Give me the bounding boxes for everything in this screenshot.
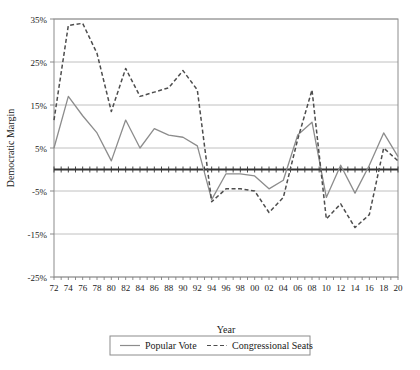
x-tick-label-88: 88 — [164, 283, 174, 293]
x-tick-label-90: 90 — [179, 283, 189, 293]
x-tick-label-76: 76 — [78, 283, 88, 293]
y-tick-label-neg25pct: -25% — [28, 273, 48, 283]
y-axis-ticks — [50, 19, 54, 277]
x-tick-label-94: 94 — [207, 283, 217, 293]
x-axis-title: Year — [217, 324, 236, 335]
x-tick-label-86: 86 — [150, 283, 160, 293]
y-tick-label-15pct: 15% — [31, 101, 48, 111]
x-axis-tick-labels: 7274767880828486889092949698000204060810… — [50, 283, 404, 293]
chart-container: 7274767880828486889092949698000204060810… — [0, 0, 420, 370]
x-tick-label-00: 00 — [250, 283, 260, 293]
democratic-margin-line-chart: 7274767880828486889092949698000204060810… — [0, 0, 420, 370]
x-tick-label-18: 18 — [379, 283, 389, 293]
x-tick-label-10: 10 — [322, 283, 332, 293]
y-tick-label-neg15pct: -15% — [28, 230, 48, 240]
x-tick-label-74: 74 — [64, 283, 74, 293]
y-tick-label-5pct: 5% — [35, 144, 48, 154]
legend-label-congressional-seats: Congressional Seats — [232, 340, 313, 351]
x-tick-label-92: 92 — [193, 283, 202, 293]
x-tick-label-20: 20 — [394, 283, 404, 293]
x-tick-label-84: 84 — [136, 283, 146, 293]
x-tick-label-78: 78 — [93, 283, 103, 293]
x-tick-label-14: 14 — [351, 283, 361, 293]
x-tick-label-02: 02 — [265, 283, 274, 293]
legend-label-popular-vote: Popular Vote — [145, 340, 197, 351]
chart-legend: Popular Vote Congressional Seats — [110, 336, 313, 355]
x-tick-label-16: 16 — [365, 283, 375, 293]
x-tick-label-98: 98 — [236, 283, 246, 293]
y-tick-label-35pct: 35% — [31, 15, 48, 25]
y-tick-label-25pct: 25% — [31, 58, 48, 68]
y-tick-label-neg5pct: -5% — [32, 187, 47, 197]
y-axis-tick-labels: 35%25%15%5%-5%-15%-25% — [28, 15, 48, 283]
x-tick-label-96: 96 — [222, 283, 232, 293]
x-tick-label-12: 12 — [336, 283, 345, 293]
x-tick-label-80: 80 — [107, 283, 117, 293]
x-tick-label-82: 82 — [121, 283, 130, 293]
x-tick-label-72: 72 — [50, 283, 59, 293]
y-axis-title: Democratic Margin — [5, 109, 16, 187]
x-tick-label-06: 06 — [293, 283, 303, 293]
x-tick-label-08: 08 — [308, 283, 318, 293]
x-tick-label-04: 04 — [279, 283, 289, 293]
